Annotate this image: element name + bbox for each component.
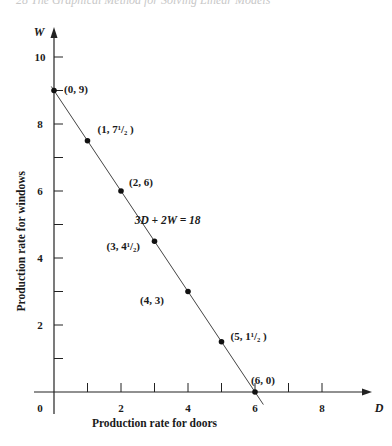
x-tick-label: 2 — [118, 402, 124, 414]
y-axis-symbol: W — [34, 25, 46, 39]
y-axis-title: Production rate for windows — [15, 171, 27, 312]
x-tick-label: 0 — [37, 402, 43, 414]
data-point — [51, 88, 57, 94]
point-label: (6, 0) — [251, 374, 275, 387]
point-label: (5, 1¹/₂ ) — [231, 330, 268, 343]
data-point — [185, 289, 191, 295]
x-axis-title: Production rate for doors — [92, 417, 218, 429]
x-tick-label: 4 — [185, 402, 191, 414]
data-point — [152, 238, 158, 244]
y-tick-label: 8 — [37, 118, 43, 130]
labels: DW02468246810Production rate for doorsPr… — [15, 25, 384, 429]
data-point — [219, 339, 225, 345]
x-axis-arrow-icon — [362, 389, 372, 396]
x-tick-label: 8 — [319, 402, 325, 414]
data-point — [252, 389, 258, 395]
data-point — [85, 138, 91, 144]
point-label: (3, 4¹/₂) — [107, 240, 141, 253]
data-series — [51, 86, 263, 404]
point-label: (4, 3) — [140, 294, 164, 307]
y-tick-label: 4 — [37, 252, 43, 264]
x-axis-symbol: D — [374, 401, 384, 415]
x-tick-label: 6 — [252, 402, 258, 414]
line-chart: DW02468246810Production rate for doorsPr… — [0, 0, 392, 446]
y-tick-label: 2 — [37, 319, 43, 331]
equation-label: 3D + 2W = 18 — [134, 214, 201, 226]
y-tick-label: 10 — [35, 51, 47, 63]
point-label: (0, 9) — [64, 83, 88, 96]
point-label: (2, 6) — [129, 176, 153, 189]
y-axis-arrow-icon — [51, 27, 58, 38]
data-point — [118, 188, 124, 194]
point-label: (1, 7¹/₂ ) — [98, 123, 135, 136]
constraint-line — [51, 86, 263, 404]
y-tick-label: 6 — [37, 185, 43, 197]
